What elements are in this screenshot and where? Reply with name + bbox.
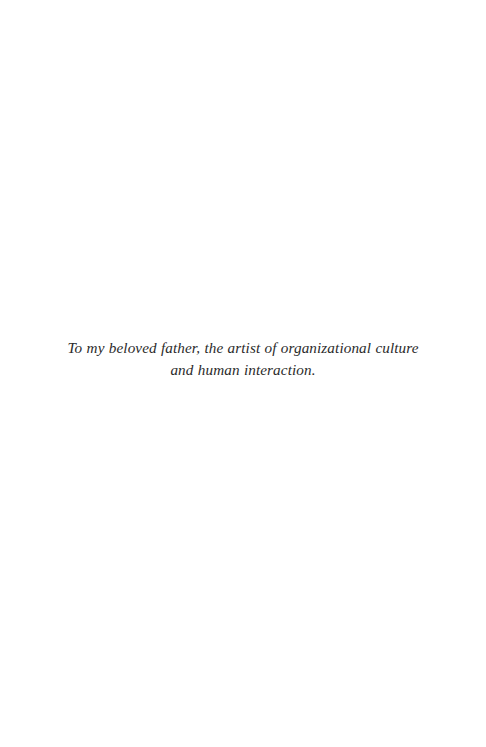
- dedication-text: To my beloved father, the artist of orga…: [58, 337, 428, 381]
- dedication-page: To my beloved father, the artist of orga…: [0, 0, 486, 747]
- dedication-block: To my beloved father, the artist of orga…: [0, 337, 486, 381]
